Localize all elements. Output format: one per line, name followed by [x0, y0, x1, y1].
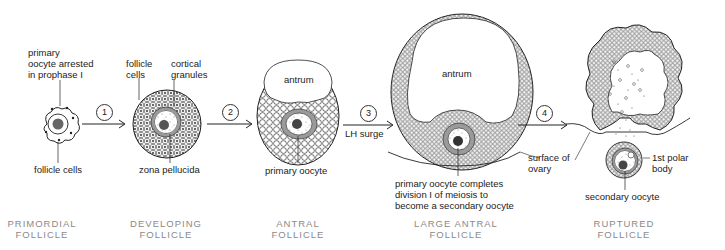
first-polar-body-label: 1st polar body — [652, 152, 688, 174]
cortical-granules-label: cortical granules — [171, 58, 207, 80]
surface-of-ovary-label: surface of ovary — [528, 152, 570, 174]
primary-oocyte-label: primary oocyte — [265, 165, 327, 176]
meiosis-description-label: primary oocyte completes division I of m… — [395, 178, 514, 211]
secondary-oocyte-label: secondary oocyte — [585, 191, 659, 202]
stage-title-ruptured: RUPTURED FOLLICLE — [594, 218, 655, 240]
large-antral-follicle — [388, 14, 540, 176]
follicle-development-diagram: 1 2 3 LH surge 4 primary oocyte arrested… — [0, 0, 725, 250]
developing-follicle — [133, 78, 201, 163]
stage-title-primordial: PRIMORDIAL FOLLICLE — [7, 218, 76, 240]
step-2-badge: 2 — [222, 104, 239, 121]
stage-title-antral: ANTRAL FOLLICLE — [272, 218, 325, 240]
arrow-1 — [82, 120, 125, 128]
zona-pellucida-label: zona pellucida — [139, 164, 200, 175]
step-3-badge: 3 — [360, 105, 377, 122]
step-1-badge: 1 — [96, 104, 113, 121]
large-antrum-label: antrum — [442, 68, 472, 79]
stage-title-developing: DEVELOPING FOLLICLE — [130, 218, 202, 240]
stage-title-large-antral: LARGE ANTRAL FOLLICLE — [414, 218, 498, 240]
arrow-2 — [207, 120, 252, 128]
developing-follicle-cells-label: follicle cells — [126, 58, 152, 80]
step-4-badge: 4 — [536, 105, 553, 122]
antral-antrum-label: antrum — [284, 74, 314, 85]
follicle-cells-label: follicle cells — [34, 164, 82, 175]
primordial-follicle — [44, 80, 79, 163]
diagram-artwork — [0, 0, 725, 250]
lh-surge-label: LH surge — [345, 128, 384, 139]
primary-oocyte-arrested-label: primary oocyte arrested in prophase I — [28, 47, 93, 80]
